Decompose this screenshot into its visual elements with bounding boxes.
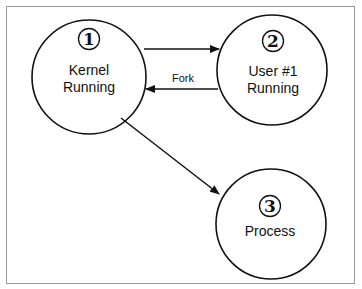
node-label-line1: Kernel (69, 62, 109, 78)
node-label-line2: Running (247, 80, 299, 96)
node-label-line1: Process (245, 223, 296, 239)
node-kernel-running: 1 Kernel Running (32, 20, 146, 134)
node-number: 1 (83, 29, 95, 49)
state-diagram: 1 Kernel Running 2 User #1 Running 3 Pro… (0, 0, 362, 289)
node-process: 3 Process (216, 169, 326, 279)
edge-kernel-to-process-arrow (121, 118, 219, 194)
node-number: 2 (267, 31, 279, 51)
node-number: 3 (264, 196, 276, 216)
node-label-line2: Running (63, 79, 115, 95)
node-user-running: 2 User #1 Running (217, 15, 327, 125)
edge-label-fork: Fork (172, 72, 195, 84)
node-label-line1: User #1 (248, 63, 297, 79)
